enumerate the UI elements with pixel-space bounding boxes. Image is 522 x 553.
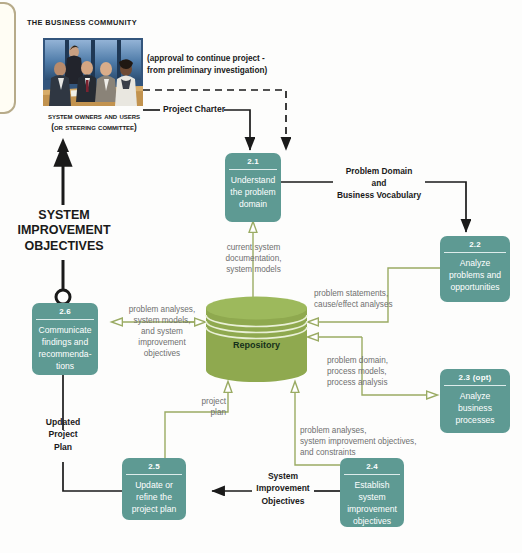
- flow-label-updated-project-plan: Updated Project Plan: [33, 416, 93, 453]
- flow-label-project-plan: project plan: [168, 396, 226, 418]
- repository-shape: [205, 296, 308, 382]
- process-number-2-6: 2.6: [36, 303, 94, 320]
- process-box-2-2[interactable]: 2.2 Analyze problems and opportunities: [440, 236, 510, 302]
- process-label-2-3: Analyze business processes: [440, 386, 510, 431]
- business-meeting-photo: [43, 38, 143, 106]
- process-number-2-1: 2.1: [229, 153, 277, 170]
- process-box-2-5[interactable]: 2.5 Update or refine the project plan: [122, 458, 186, 520]
- process-box-2-3[interactable]: 2.3 (opt) Analyze business processes: [440, 369, 510, 433]
- datastore-repository[interactable]: Repository: [205, 296, 308, 382]
- repository-label: Repository: [205, 340, 308, 350]
- flow-label-current-system-docs: current system documentation, system mod…: [196, 242, 311, 275]
- process-box-2-6[interactable]: 2.6 Communicate findings and recommenda-…: [32, 303, 98, 375]
- flow-label-problem-domain-process: problem domain, process models, process …: [327, 355, 447, 388]
- diagram-canvas: THE BUSINESS COMMUNITY: [0, 0, 522, 553]
- photo-artwork: [43, 38, 143, 106]
- process-number-2-3: 2.3 (opt): [444, 369, 506, 386]
- process-box-2-4[interactable]: 2.4 Establish system improvement objecti…: [340, 458, 404, 527]
- flow-label-project-charter: Project Charter: [163, 104, 225, 115]
- process-label-2-4: Establish system improvement objectives: [340, 475, 404, 527]
- flow-label-problem-analyses-constraints: problem analyses, system improvement obj…: [300, 425, 460, 458]
- flow-label-problem-statements: problem statements, cause/effect analyse…: [314, 288, 444, 310]
- flow-label-problem-domain: Problem Domain and Business Vocabulary: [333, 166, 425, 202]
- process-number-2-2: 2.2: [444, 236, 506, 253]
- process-box-2-1[interactable]: 2.1 Understand the problem domain: [225, 153, 281, 222]
- process-label-2-6: Communicate findings and recommenda- tio…: [32, 320, 98, 375]
- actor-caption: System Owners and Users (or Steering Com…: [18, 112, 170, 133]
- process-number-2-4: 2.4: [344, 458, 400, 475]
- flow-label-approval: (approval to continue project - from pre…: [147, 53, 267, 77]
- flow-project-plan: [165, 382, 228, 458]
- page-title: THE BUSINESS COMMUNITY: [27, 18, 137, 27]
- process-label-2-2: Analyze problems and opportunities: [440, 253, 510, 298]
- flow-label-problem-analyses-2-6: problem analyses, system models, and sys…: [118, 304, 206, 359]
- flow-label-system-improvement-objectives: System Improvement Objectives: [247, 470, 319, 507]
- big-objectives-label: SYSTEM IMPROVEMENT OBJECTIVES: [0, 208, 128, 254]
- process-label-2-1: Understand the problem domain: [225, 170, 281, 215]
- process-label-2-5: Update or refine the project plan: [122, 475, 186, 520]
- process-number-2-5: 2.5: [126, 458, 182, 475]
